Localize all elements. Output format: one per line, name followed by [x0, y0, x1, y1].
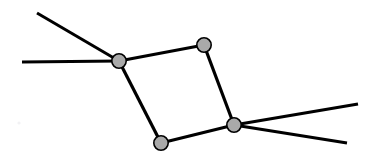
- edge-right-to-bottomleft: [161, 125, 234, 143]
- top-right-node[interactable]: [197, 38, 211, 52]
- edge-layer: [119, 45, 234, 143]
- pendant-edge-lower-right: [234, 125, 347, 143]
- left-junction-node[interactable]: [112, 54, 126, 68]
- pendant-edge-upper-right: [234, 104, 358, 125]
- edge-topright-to-right: [204, 45, 234, 125]
- artifact-layer: [17, 121, 20, 124]
- edge-bottomleft-to-left: [119, 61, 161, 143]
- edge-left-to-topright: [119, 45, 204, 61]
- bottom-left-node[interactable]: [154, 136, 168, 150]
- pendant-edge-horizontal-left: [22, 61, 119, 62]
- diagram-canvas: [0, 0, 376, 164]
- pendant-edge-layer: [22, 13, 358, 143]
- pendant-edge-upper-left: [37, 13, 119, 61]
- graph-diagram: [0, 0, 376, 164]
- faint-speck: [17, 121, 20, 124]
- right-junction-node[interactable]: [227, 118, 241, 132]
